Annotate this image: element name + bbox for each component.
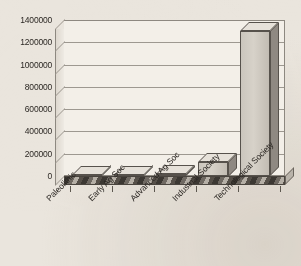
x-axis-tick bbox=[196, 186, 197, 192]
axis-floor-slab bbox=[64, 176, 285, 185]
y-axis-tick-label: 1200000 bbox=[0, 38, 52, 47]
bar-series bbox=[64, 20, 285, 176]
y-axis-tick-label: 1000000 bbox=[0, 60, 52, 69]
bar-industrial-society bbox=[198, 162, 228, 177]
y-axis-tick-label: 200000 bbox=[0, 149, 52, 158]
axis-floor-slab-side bbox=[285, 167, 294, 185]
bar-front-face bbox=[198, 162, 228, 177]
y-axis-tick-label: 0 bbox=[0, 172, 52, 181]
x-axis-tick bbox=[70, 186, 71, 192]
y-axis-tick-label: 1400000 bbox=[0, 16, 52, 25]
x-axis-tick bbox=[112, 186, 113, 192]
x-axis-tick bbox=[238, 186, 239, 192]
bar-side-face bbox=[270, 22, 279, 176]
y-axis-tick-label: 800000 bbox=[0, 82, 52, 91]
bar-chart: 1400000 1200000 1000000 800000 600000 40… bbox=[0, 0, 301, 266]
x-axis-tick bbox=[154, 186, 155, 192]
bar-front-face bbox=[240, 31, 270, 176]
bar-technological-society bbox=[240, 31, 270, 176]
y-axis-tick-label: 600000 bbox=[0, 105, 52, 114]
y-axis-tick-label: 400000 bbox=[0, 127, 52, 136]
y-axis-tick-labels: 1400000 1200000 1000000 800000 600000 40… bbox=[0, 0, 52, 266]
x-axis-tick bbox=[280, 186, 281, 192]
plot-area bbox=[64, 20, 285, 176]
